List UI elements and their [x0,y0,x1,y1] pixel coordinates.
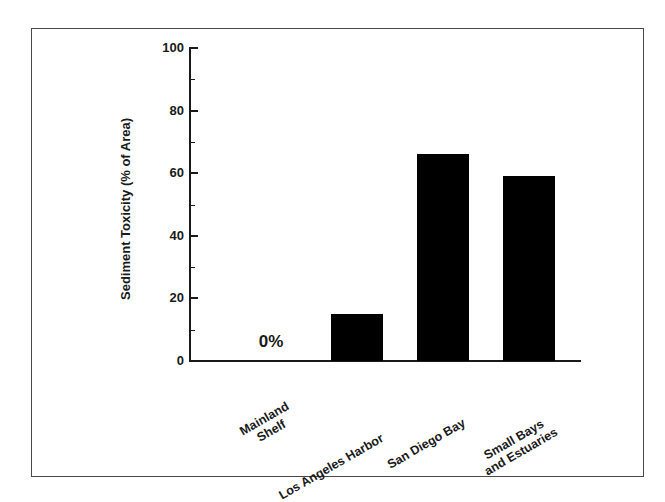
y-tick-major [191,235,198,237]
y-tick-minor [191,267,195,268]
y-tick-major [191,110,198,112]
y-tick-label: 20 [148,291,184,304]
y-axis-title: Sediment Toxicity (% of Area) [118,118,133,300]
y-tick-label: 100 [148,41,184,54]
y-tick-label: 40 [148,229,184,242]
bar [331,314,383,361]
y-tick-major [191,47,198,49]
y-tick-minor [191,205,195,206]
y-tick-minor [191,142,195,143]
bar [503,176,555,361]
y-tick-minor [191,330,195,331]
zero-value-annotation: 0% [231,332,311,352]
bar [417,154,469,361]
y-tick-major [191,172,198,174]
y-tick-minor [191,79,195,80]
y-tick-label: 0 [148,354,184,367]
y-tick-major [191,360,198,362]
y-tick-label: 80 [148,104,184,117]
y-tick-label: 60 [148,166,184,179]
y-tick-major [191,297,198,299]
